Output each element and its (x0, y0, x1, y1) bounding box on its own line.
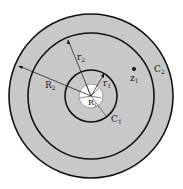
annulus-diagram: r2 R2 r1 R1 z1 C1 C2 (0, 0, 183, 189)
point-z1 (132, 67, 136, 71)
